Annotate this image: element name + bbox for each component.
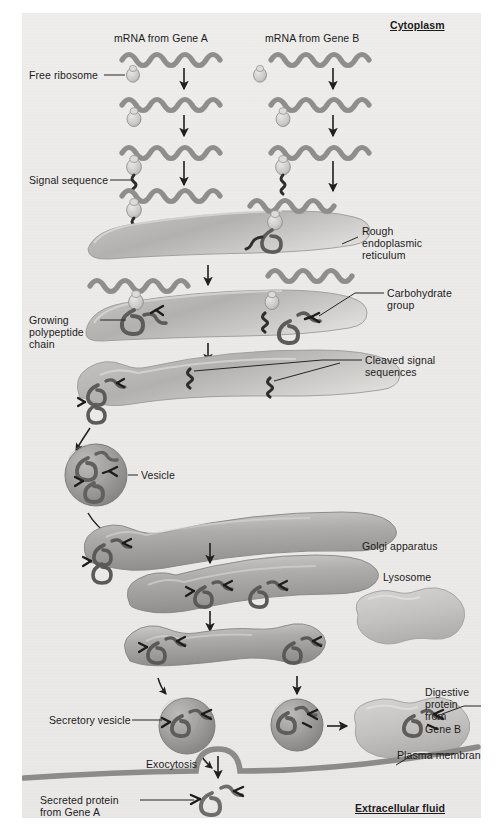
- mrna-gene-a-strand-2: [122, 100, 220, 127]
- mrna-gene-b-strand-1: [271, 55, 369, 66]
- mrna-gene-a-strand-3: [122, 148, 220, 195]
- free-ribosome-label: Free ribosome: [29, 69, 98, 81]
- cytoplasm-label: Cytoplasm: [390, 19, 445, 31]
- exocytosis-label: Exocytosis: [146, 758, 197, 770]
- carbohydrate-line-1: Carbohydrate: [387, 287, 452, 299]
- cytoplasm-panel: Cytoplasm Extracellular fluid mRNA from …: [22, 13, 481, 818]
- rough-er-label: Roughendoplasmicreticulum: [362, 225, 422, 262]
- diagram-artwork: [22, 13, 481, 818]
- rough-er-stage-3: [77, 350, 400, 406]
- budding-arrow: [158, 678, 166, 694]
- digestive-protein-label: DigestiveproteinfromGene B: [425, 686, 469, 735]
- digestive-line-4: Gene B: [425, 723, 461, 735]
- rough-er-line-1: Rough: [362, 225, 393, 237]
- lysosome-label: Lysosome: [383, 571, 431, 583]
- secretory-vesicle-label: Secretory vesicle: [49, 714, 131, 726]
- digestive-line-2: protein: [425, 698, 458, 710]
- free-ribosome-b: [254, 65, 267, 82]
- secreted-line-1: Secreted protein: [40, 794, 119, 806]
- carbohydrate-group: [78, 398, 85, 406]
- carbohydrate-group-label: Carbohydrategroup: [387, 287, 452, 311]
- extracellular-fluid-label: Extracellular fluid: [355, 802, 445, 814]
- figure-root: Cytoplasm Extracellular fluid mRNA from …: [0, 0, 496, 830]
- secreted-protein-label: Secreted proteinfrom Gene A: [40, 794, 119, 818]
- plasma-membrane-label: Plasma membrane: [397, 749, 481, 761]
- mrna-gene-b-label: mRNA from Gene B: [265, 32, 359, 44]
- mrna-gene-a-strand-1: [122, 55, 220, 66]
- carbohydrate-line-2: group: [387, 299, 414, 311]
- signal-sequence-label: Signal sequence: [29, 174, 108, 186]
- rough-er-line-3: reticulum: [362, 249, 406, 261]
- rough-endoplasmic-reticulum: [88, 211, 370, 259]
- signal-sequence-chain: [281, 175, 285, 194]
- mrna-gene-b-strand-3: [271, 148, 369, 195]
- secreted-protein-from-gene-a: [191, 786, 243, 815]
- secretory-vesicle: [159, 698, 215, 754]
- growing-polypeptide-line-1: Growing: [29, 314, 69, 326]
- lysosome: [356, 588, 464, 644]
- cleaved-signal-line-1: Cleaved signal: [365, 354, 435, 366]
- digestive-line-3: from: [425, 710, 446, 722]
- vesicle-label: Vesicle: [141, 469, 175, 481]
- free-ribosome-a: [127, 65, 140, 82]
- lysosome-transport-vesicle: [271, 699, 323, 751]
- golgi-label: Golgi apparatus: [362, 540, 438, 552]
- mrna-gene-b-strand-5: [268, 271, 352, 282]
- mrna-gene-b-strand-2: [271, 100, 369, 127]
- growing-polypeptide-line-2: polypeptide: [29, 326, 84, 338]
- mrna-gene-a-label: mRNA from Gene A: [114, 32, 208, 44]
- growing-polypeptide-label: Growingpolypeptidechain: [29, 314, 84, 351]
- secreted-line-2: from Gene A: [40, 806, 100, 818]
- cleaved-signal-line-2: sequences: [365, 366, 417, 378]
- growing-polypeptide-line-3: chain: [29, 338, 55, 350]
- digestive-line-1: Digestive: [425, 686, 469, 698]
- cleaved-signal-label: Cleaved signalsequences: [365, 354, 435, 378]
- rough-er-line-2: endoplasmic: [362, 237, 422, 249]
- transport-vesicle: [65, 444, 127, 506]
